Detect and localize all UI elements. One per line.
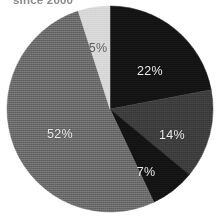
pie-slice-label: 5% xyxy=(89,41,108,55)
pie-chart-svg xyxy=(6,4,214,218)
pie-slice-label: 22% xyxy=(137,64,163,78)
pie-slice-group xyxy=(7,6,213,212)
pie-slice-label: 7% xyxy=(137,165,156,179)
pie-slice-label: 14% xyxy=(159,128,185,142)
pie-chart xyxy=(6,4,214,218)
pie-slice-label: 52% xyxy=(47,127,73,141)
pie-chart-figure: since 2000 22%14%7%52%5% xyxy=(0,0,218,221)
